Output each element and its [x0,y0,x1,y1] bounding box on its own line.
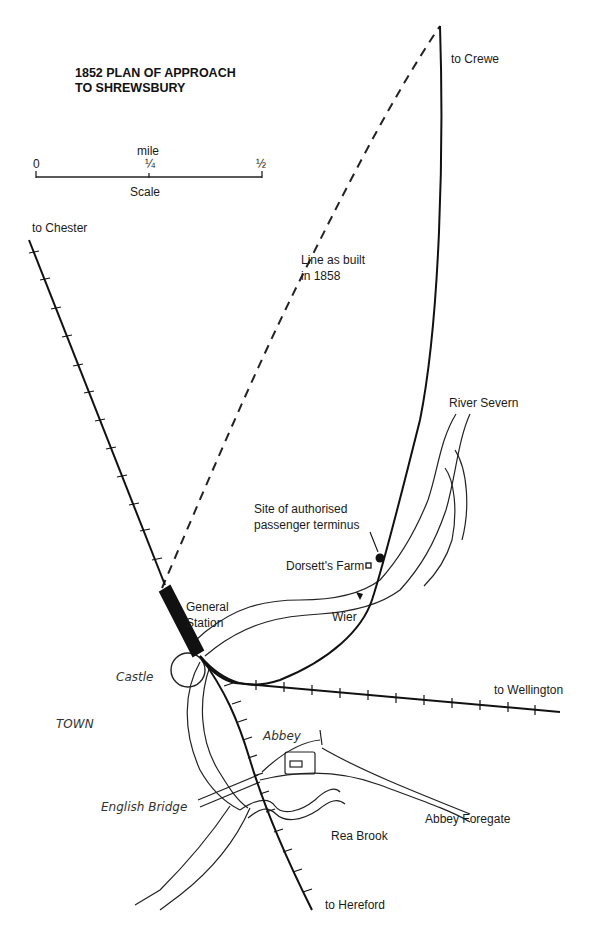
label-abbey: Abbey [263,729,301,743]
scale-tick-0: 0 [33,157,40,171]
label-to-crewe: to Crewe [451,52,499,66]
label-to-hereford: to Hereford [325,898,385,912]
label-to-wellington: to Wellington [494,683,563,697]
label-english-bridge: English Bridge [101,800,187,814]
label-general-station-1: General [186,600,229,614]
label-terminus-1: Site of authorised [254,502,347,516]
terminus-marker [376,554,385,563]
label-castle: Castle [116,670,153,684]
label-wier: Wier [332,610,357,624]
railway-to-crewe [200,26,441,685]
scale-tick-quarter: ¼ [145,157,155,171]
abbey-foregate-road [198,730,470,822]
river-severn [135,414,470,910]
label-river-severn: River Severn [449,396,518,410]
dorsetts-farm-marker [366,563,371,568]
scale-unit-label: mile [137,144,159,158]
map-title: 1852 PLAN OF APPROACH TO SHREWSBURY [75,66,236,96]
railway-to-chester [29,240,165,585]
label-dorsetts-farm: Dorsett's Farm [286,559,364,573]
scale-bar [36,171,262,178]
label-general-station-2: Station [186,616,223,630]
label-rea-brook: Rea Brook [331,829,388,843]
map-drawing [0,0,593,933]
scale-caption: Scale [130,185,160,199]
label-line-as-built-2: in 1858 [301,269,340,283]
castle-outline [171,653,205,687]
label-line-as-built-1: Line as built [301,253,365,267]
label-terminus-2: passenger terminus [254,518,359,532]
scale-tick-half: ½ [256,157,266,171]
label-to-chester: to Chester [32,221,87,235]
railway-to-hereford [200,656,312,910]
label-abbey-foregate: Abbey Foregate [425,812,510,826]
label-town: TOWN [56,717,94,731]
